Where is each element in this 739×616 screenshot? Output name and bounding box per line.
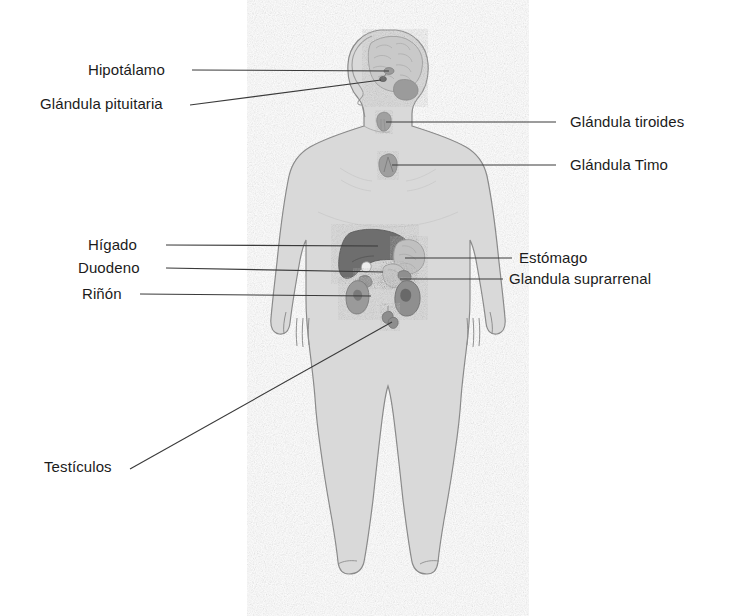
endocrine-system-diagram: Hipotálamo Glándula pituitaria Glándula …: [0, 0, 739, 616]
human-body-figure: [0, 0, 739, 616]
label-rinon: Riñón: [82, 285, 122, 302]
label-testiculos: Testículos: [44, 458, 112, 475]
label-glandula-suprarrenal: Glandula suprarrenal: [509, 270, 651, 287]
label-duodeno: Duodeno: [78, 259, 140, 276]
label-estomago: Estómago: [519, 249, 587, 266]
label-glandula-pituitaria: Glándula pituitaria: [40, 95, 163, 112]
leader-line-glandula-pituitaria: [190, 80, 381, 105]
label-hipotalamo: Hipotálamo: [88, 61, 165, 78]
label-glandula-tiroides: Glándula tiroides: [570, 113, 684, 130]
label-higado: Hígado: [88, 236, 137, 253]
label-glandula-timo: Glándula Timo: [570, 156, 668, 173]
body-silhouette: [271, 30, 505, 574]
